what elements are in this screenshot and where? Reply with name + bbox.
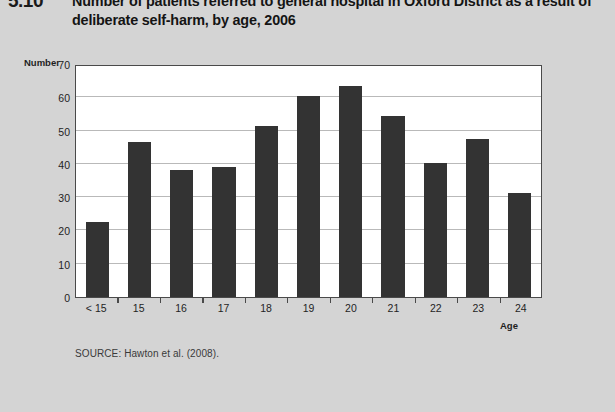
x-axis-tick-label: < 15 xyxy=(75,302,117,314)
y-axis-tick-label: 40 xyxy=(32,159,70,171)
bar-slot xyxy=(118,66,160,297)
bar-slot xyxy=(330,66,372,297)
x-axis-tick-label: 21 xyxy=(372,302,414,314)
x-axis-title: Age xyxy=(500,320,518,331)
bar-series xyxy=(76,66,541,297)
x-axis-tick-label: 17 xyxy=(202,302,244,314)
bar xyxy=(86,222,109,297)
bar xyxy=(466,139,489,297)
bar-slot xyxy=(287,66,329,297)
bar-slot xyxy=(499,66,541,297)
y-axis-tick-label: 50 xyxy=(32,126,70,138)
x-axis-tick-label: 15 xyxy=(117,302,159,314)
plot-area xyxy=(75,65,542,298)
bar xyxy=(424,163,447,297)
bar-slot xyxy=(76,66,118,297)
y-axis-tick-label: 20 xyxy=(32,225,70,237)
x-axis-tick-label: 22 xyxy=(415,302,457,314)
x-axis-tick-label: 24 xyxy=(500,302,542,314)
y-axis-tick-label: 70 xyxy=(32,59,70,71)
x-axis-tick-label: 19 xyxy=(287,302,329,314)
source-note: SOURCE: Hawton et al. (2008). xyxy=(75,348,219,359)
bar xyxy=(255,126,278,297)
x-axis-tick-label: 23 xyxy=(457,302,499,314)
y-axis-tick-label: 0 xyxy=(32,292,70,304)
y-axis-tick-labels: 010203040506070 xyxy=(28,65,70,298)
bar xyxy=(212,167,235,297)
bar xyxy=(508,193,531,297)
bar xyxy=(297,96,320,297)
y-axis-tick-label: 30 xyxy=(32,192,70,204)
bar-slot xyxy=(203,66,245,297)
bar-slot xyxy=(414,66,456,297)
y-axis-tick-label: 60 xyxy=(32,92,70,104)
bar xyxy=(170,170,193,297)
bar-slot xyxy=(161,66,203,297)
x-axis-tick-label: 20 xyxy=(330,302,372,314)
y-axis-tick-label: 10 xyxy=(32,259,70,271)
x-axis-tick-labels: < 1515161718192021222324 xyxy=(75,302,542,314)
x-axis-tick-label: 18 xyxy=(245,302,287,314)
bar xyxy=(128,142,151,297)
bar-slot xyxy=(372,66,414,297)
bar-slot xyxy=(456,66,498,297)
x-axis-tick-label: 16 xyxy=(160,302,202,314)
bar-slot xyxy=(245,66,287,297)
bar xyxy=(339,86,362,297)
bar xyxy=(381,116,404,297)
